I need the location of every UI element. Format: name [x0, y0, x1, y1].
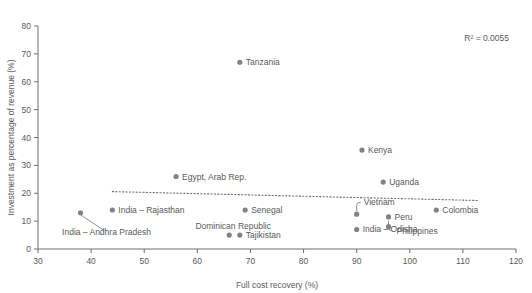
data-point[interactable] — [354, 212, 359, 217]
data-point-label: India – Odisha — [363, 224, 418, 234]
data-point[interactable] — [173, 174, 178, 179]
data-point[interactable] — [386, 214, 391, 219]
data-point[interactable] — [110, 207, 115, 212]
data-point-label: Tajikistan — [246, 230, 281, 240]
x-tick-label: 110 — [456, 256, 470, 266]
x-tick-label: 90 — [352, 256, 362, 266]
data-point-label: Egypt, Arab Rep. — [182, 172, 246, 182]
data-point[interactable] — [354, 227, 359, 232]
x-tick-label: 70 — [246, 256, 256, 266]
x-tick-label: 30 — [33, 256, 43, 266]
x-tick-label: 120 — [509, 256, 523, 266]
y-tick-label: 30 — [22, 160, 32, 170]
x-tick-label: 60 — [193, 256, 203, 266]
data-point[interactable] — [227, 232, 232, 237]
data-point[interactable] — [78, 210, 83, 215]
data-point[interactable] — [434, 207, 439, 212]
trendline — [112, 192, 478, 201]
y-tick-label: 20 — [22, 188, 32, 198]
data-point-label: Colombia — [442, 205, 478, 215]
data-point[interactable] — [381, 180, 386, 185]
data-point-label: India – Rajasthan — [118, 205, 184, 215]
data-point[interactable] — [237, 60, 242, 65]
y-tick-label: 10 — [22, 216, 32, 226]
scatter-chart: 0102030405060708030405060708090100110120… — [0, 0, 532, 293]
data-point-label: India – Andhra Pradesh — [62, 227, 151, 237]
y-axis-title: Investment as percentage of revenue (%) — [6, 59, 16, 215]
data-point-label: Kenya — [368, 145, 392, 155]
y-tick-label: 40 — [22, 133, 32, 143]
r-squared-annotation: R² = 0.0055 — [464, 33, 509, 43]
x-axis-title: Full cost recovery (%) — [236, 280, 318, 290]
y-tick-label: 50 — [22, 105, 32, 115]
x-tick-label: 40 — [86, 256, 96, 266]
x-tick-label: 50 — [139, 256, 149, 266]
data-point-label: Tanzania — [246, 57, 280, 67]
x-tick-label: 80 — [299, 256, 309, 266]
data-point-label: Uganda — [389, 177, 419, 187]
x-tick-label: 100 — [403, 256, 417, 266]
data-point[interactable] — [359, 147, 364, 152]
y-tick-label: 80 — [22, 21, 32, 31]
data-point-label: Senegal — [251, 205, 282, 215]
data-point-label: Peru — [395, 212, 413, 222]
label-leader-line — [357, 202, 361, 211]
chart-canvas: 0102030405060708030405060708090100110120… — [0, 0, 532, 293]
y-tick-label: 0 — [26, 244, 31, 254]
data-point[interactable] — [243, 207, 248, 212]
data-point[interactable] — [237, 232, 242, 237]
data-point-label: Vietnam — [364, 197, 395, 207]
y-tick-label: 70 — [22, 49, 32, 59]
y-tick-label: 60 — [22, 77, 32, 87]
